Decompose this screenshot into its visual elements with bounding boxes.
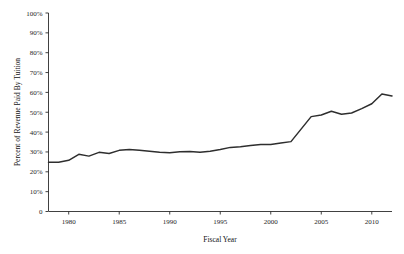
y-tick-label: 10% (30, 188, 43, 196)
x-tick-label: 2010 (365, 218, 380, 226)
y-tick-label: 80% (30, 49, 43, 57)
y-tick-label: 100% (26, 10, 43, 18)
x-tick-label: 1995 (213, 218, 228, 226)
line-chart-svg: 010%20%30%40%50%60%70%80%90%100% Percent… (0, 0, 404, 254)
y-tick-label: 20% (30, 168, 43, 176)
y-axis-title: Percent of Revenue Paid By Tuition (13, 58, 22, 166)
y-tick-label: 0 (39, 208, 43, 216)
chart-figure: 010%20%30%40%50%60%70%80%90%100% Percent… (0, 0, 404, 254)
y-tick-label: 60% (30, 89, 43, 97)
x-tick-label: 1985 (112, 218, 127, 226)
data-series-line (49, 94, 393, 162)
y-tick-labels: 010%20%30%40%50%60%70%80%90%100% (26, 10, 43, 217)
plot-area (49, 94, 393, 162)
y-tick-label: 30% (30, 148, 43, 156)
y-axis-group: 010%20%30%40%50%60%70%80%90%100% Percent… (13, 10, 49, 217)
x-tick-label: 2005 (314, 218, 329, 226)
y-tick-label: 70% (30, 69, 43, 77)
x-axis-group: 1980198519901995200020052010 Fiscal Year (49, 212, 393, 245)
y-tick-label: 40% (30, 129, 43, 137)
x-axis-title: Fiscal Year (203, 235, 237, 244)
y-tick-label: 50% (30, 109, 43, 117)
x-tick-label: 1990 (163, 218, 178, 226)
x-tick-labels: 1980198519901995200020052010 (62, 218, 380, 226)
x-tick-label: 1980 (62, 218, 77, 226)
y-tick-label: 90% (30, 29, 43, 37)
x-tick-label: 2000 (264, 218, 279, 226)
